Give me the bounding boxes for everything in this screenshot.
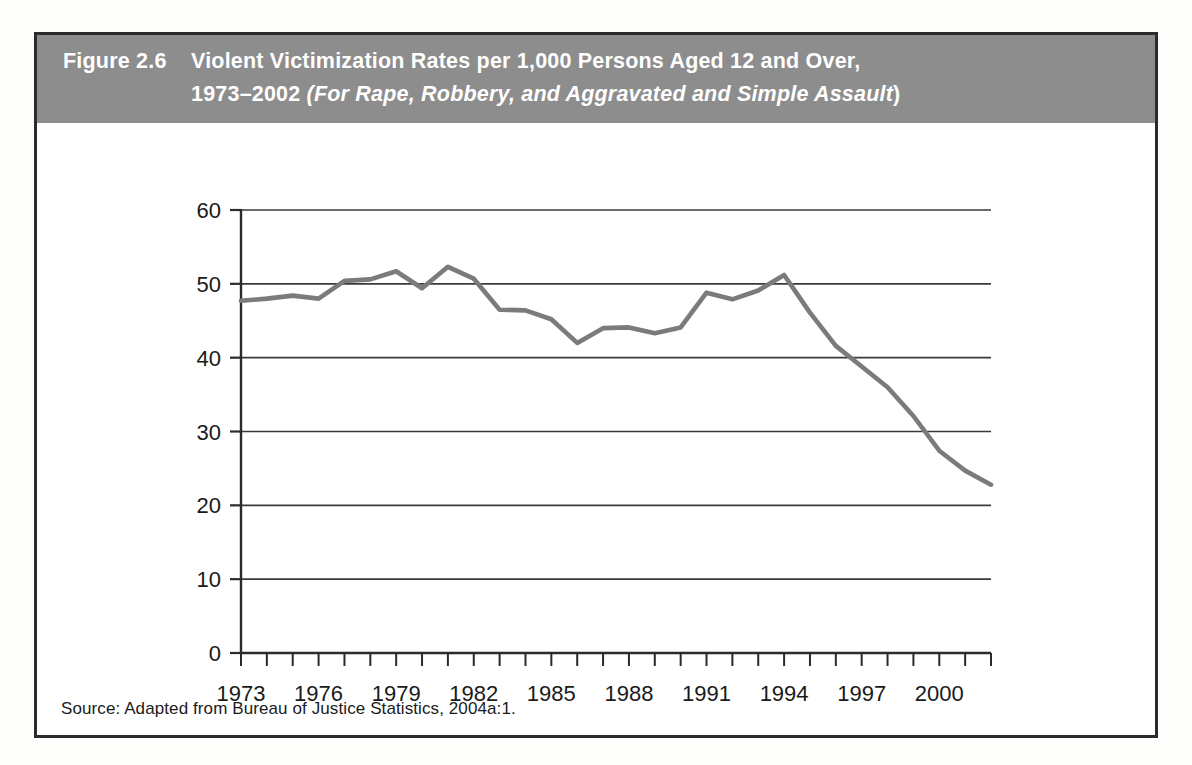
y-tick-label: 60 bbox=[197, 198, 221, 223]
y-tick-label: 40 bbox=[197, 346, 221, 371]
figure-title-paren-close: ) bbox=[893, 82, 900, 106]
y-axis-labels-group: 0102030405060 bbox=[197, 198, 221, 666]
figure-frame: Figure 2.6Violent Victimization Rates pe… bbox=[34, 32, 1158, 738]
figure-title-subtitle: (For Rape, Robbery, and Aggravated and S… bbox=[307, 82, 893, 106]
y-axis-ticks-group bbox=[230, 210, 241, 653]
page-canvas: Figure 2.6Violent Victimization Rates pe… bbox=[0, 0, 1192, 765]
y-tick-label: 50 bbox=[197, 272, 221, 297]
chart-plot-area: 0102030405060 19731976197919821985198819… bbox=[37, 123, 1155, 735]
y-tick-label: 0 bbox=[209, 641, 221, 666]
x-axis-ticks-group bbox=[241, 653, 991, 666]
line-chart: 0102030405060 19731976197919821985198819… bbox=[37, 123, 1155, 738]
data-series-line bbox=[241, 267, 991, 485]
figure-header-text: Figure 2.6Violent Victimization Rates pe… bbox=[63, 45, 1139, 111]
source-note: Source: Adapted from Bureau of Justice S… bbox=[61, 699, 516, 719]
x-tick-label: 1997 bbox=[837, 681, 886, 706]
figure-title-line-2: 1973–2002 (For Rape, Robbery, and Aggrav… bbox=[63, 78, 1139, 111]
figure-title-text-1: Violent Victimization Rates per 1,000 Pe… bbox=[191, 49, 860, 73]
figure-title-line-1: Figure 2.6Violent Victimization Rates pe… bbox=[63, 45, 1139, 78]
y-tick-label: 10 bbox=[197, 567, 221, 592]
x-tick-label: 1988 bbox=[604, 681, 653, 706]
figure-number-label: Figure 2.6 bbox=[63, 45, 191, 78]
figure-title-years: 1973–2002 bbox=[191, 82, 307, 106]
y-tick-label: 30 bbox=[197, 420, 221, 445]
x-tick-label: 2000 bbox=[915, 681, 964, 706]
figure-header-band: Figure 2.6Violent Victimization Rates pe… bbox=[37, 35, 1155, 123]
x-tick-label: 1985 bbox=[527, 681, 576, 706]
x-tick-label: 1994 bbox=[760, 681, 809, 706]
x-tick-label: 1991 bbox=[682, 681, 731, 706]
gridlines-group bbox=[241, 210, 991, 579]
y-tick-label: 20 bbox=[197, 493, 221, 518]
